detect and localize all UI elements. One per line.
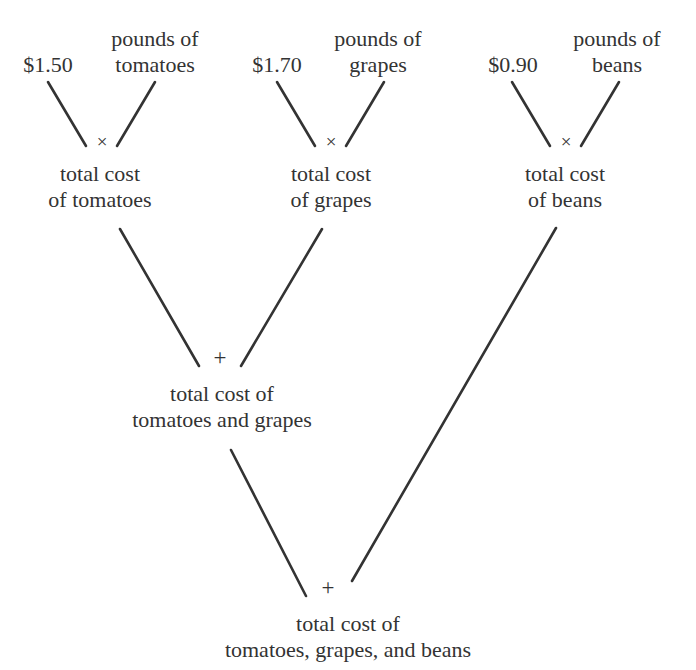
leaf-price-tomatoes-line1: $1.50 xyxy=(23,52,73,77)
node-total-tomatoes-grapes-line2: tomatoes and grapes xyxy=(132,407,312,433)
edge-pounds-beans-to-times xyxy=(581,82,619,146)
operator-plus-all: + xyxy=(322,578,335,598)
operator-times-beans: × xyxy=(561,132,572,152)
node-total-beans-line2: of beans xyxy=(525,187,605,213)
node-total-grapes-line2: of grapes xyxy=(290,187,371,213)
leaf-pounds-grapes: pounds of grapes xyxy=(334,26,421,78)
operator-times-tomatoes: × xyxy=(97,132,108,152)
node-total-tomatoes-line2: of tomatoes xyxy=(48,187,151,213)
operator-plus-all-symbol: + xyxy=(322,575,335,600)
leaf-price-beans: $0.90 xyxy=(488,52,538,78)
edge-price-grapes-to-times xyxy=(277,82,315,146)
node-total-beans: total cost of beans xyxy=(525,161,605,213)
edge-total-grapes-to-plus xyxy=(241,229,322,366)
leaf-pounds-beans: pounds of beans xyxy=(573,26,660,78)
node-total-tomatoes-grapes: total cost of tomatoes and grapes xyxy=(132,381,312,433)
operator-plus-tomatoes-grapes: + xyxy=(214,348,227,368)
edge-total-beans-to-plus xyxy=(352,228,556,581)
node-total-all: total cost of tomatoes, grapes, and bean… xyxy=(225,611,471,663)
leaf-price-grapes: $1.70 xyxy=(252,52,302,78)
node-total-grapes: total cost of grapes xyxy=(290,161,371,213)
leaf-pounds-grapes-line2: grapes xyxy=(334,52,421,78)
node-total-tomatoes-grapes-line1: total cost of xyxy=(170,381,274,406)
operator-times-tomatoes-symbol: × xyxy=(97,131,108,152)
leaf-pounds-beans-line2: beans xyxy=(573,52,660,78)
operator-times-grapes-symbol: × xyxy=(326,131,337,152)
edge-total-tomatoes-to-plus xyxy=(120,229,199,366)
node-total-all-line1: total cost of xyxy=(296,611,400,636)
node-total-beans-line1: total cost xyxy=(525,161,605,186)
leaf-price-grapes-line1: $1.70 xyxy=(252,52,302,77)
leaf-price-beans-line1: $0.90 xyxy=(488,52,538,77)
diagram-edges xyxy=(0,0,696,670)
edge-pounds-tomatoes-to-times xyxy=(117,82,155,146)
edge-price-tomatoes-to-times xyxy=(48,82,86,146)
node-total-tomatoes-line1: total cost xyxy=(60,161,140,186)
leaf-pounds-beans-line1: pounds of xyxy=(573,26,660,51)
leaf-pounds-tomatoes: pounds of tomatoes xyxy=(111,26,198,78)
edge-price-beans-to-times xyxy=(512,82,550,146)
leaf-pounds-tomatoes-line1: pounds of xyxy=(111,26,198,51)
expression-tree-diagram: $1.50 pounds of tomatoes $1.70 pounds of… xyxy=(0,0,696,670)
node-total-tomatoes: total cost of tomatoes xyxy=(48,161,151,213)
edge-pounds-grapes-to-times xyxy=(346,82,384,146)
node-total-grapes-line1: total cost xyxy=(291,161,371,186)
operator-plus-tomatoes-grapes-symbol: + xyxy=(214,345,227,370)
leaf-pounds-tomatoes-line2: tomatoes xyxy=(111,52,198,78)
operator-times-grapes: × xyxy=(326,132,337,152)
leaf-price-tomatoes: $1.50 xyxy=(23,52,73,78)
node-total-all-line2: tomatoes, grapes, and beans xyxy=(225,637,471,663)
leaf-pounds-grapes-line1: pounds of xyxy=(334,26,421,51)
edge-total-tomatoes-grapes-to-plus xyxy=(231,450,306,596)
operator-times-beans-symbol: × xyxy=(561,131,572,152)
